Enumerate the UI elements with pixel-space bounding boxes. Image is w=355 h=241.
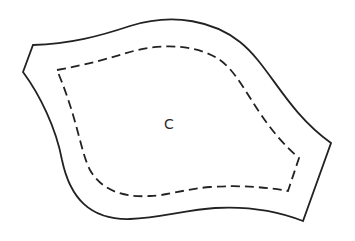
outer-cutting-line: [23, 19, 331, 221]
piece-label: C: [164, 116, 174, 132]
pattern-diagram: C: [0, 0, 355, 241]
inner-seam-line: [57, 46, 299, 196]
